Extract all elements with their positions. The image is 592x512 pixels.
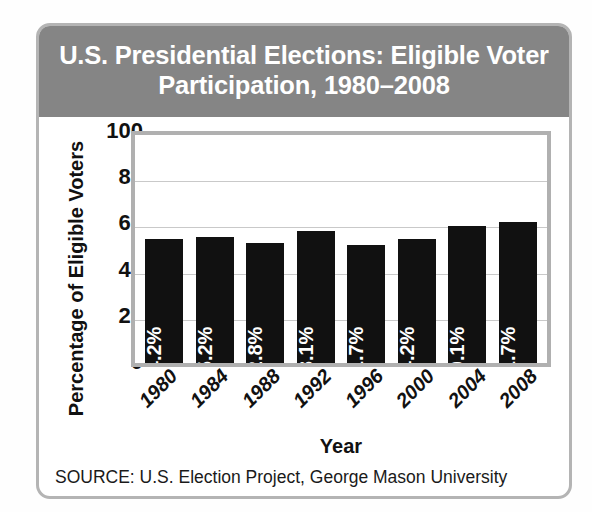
bar: 61.7% [499, 222, 537, 363]
bar-slot: 55.2% [196, 135, 234, 363]
plot-frame: 54.2% 55.2% 52.8% [131, 131, 551, 367]
bar-value-label: 52.8% [246, 327, 265, 363]
x-slot: 2008 [502, 371, 540, 433]
x-slot: 1984 [193, 371, 231, 433]
bar: 58.1% [297, 231, 335, 363]
bar-slot: 52.8% [246, 135, 284, 363]
x-tick-label: 1996 [340, 365, 388, 413]
x-tick-label: 1980 [134, 365, 182, 413]
x-slot: 1988 [245, 371, 283, 433]
x-axis-title: Year [131, 435, 551, 458]
x-axis-tick-labels: 1980 1984 1988 1992 1996 2000 2004 2008 [131, 371, 551, 433]
bar-value-label: 54.2% [145, 327, 164, 363]
bar-value-label: 60.1% [448, 327, 467, 363]
bar-series: 54.2% 55.2% 52.8% [135, 135, 547, 363]
x-tick-label: 1988 [237, 365, 285, 413]
bar: 52.8% [246, 243, 284, 363]
chart-title-band: U.S. Presidential Elections: Eligible Vo… [36, 23, 572, 117]
bar-value-label: 55.2% [196, 327, 215, 363]
x-tick-label: 1992 [289, 365, 337, 413]
bar: 54.2% [398, 239, 436, 363]
bar-value-label: 54.2% [398, 327, 417, 363]
bar-value-label: 58.1% [297, 327, 316, 363]
chart-title: U.S. Presidential Elections: Eligible Vo… [54, 40, 554, 100]
x-tick-label: 2008 [495, 365, 543, 413]
x-slot: 1980 [142, 371, 180, 433]
bar-slot: 60.1% [448, 135, 486, 363]
bar-slot: 58.1% [297, 135, 335, 363]
bar-slot: 61.7% [499, 135, 537, 363]
x-tick-label: 1984 [186, 365, 234, 413]
y-axis-title: Percentage of Eligible Voters [65, 134, 88, 424]
x-slot: 1996 [348, 371, 386, 433]
bar-slot: 54.2% [145, 135, 183, 363]
bar-value-label: 51.7% [347, 327, 366, 363]
x-slot: 1992 [296, 371, 334, 433]
source-note: SOURCE: U.S. Election Project, George Ma… [55, 467, 507, 488]
chart-figure: U.S. Presidential Elections: Eligible Vo… [0, 0, 592, 512]
x-slot: 2004 [451, 371, 489, 433]
chart-plot-region: Percentage of Eligible Voters 100 80 60 … [39, 117, 569, 496]
bar-value-label: 61.7% [499, 327, 518, 363]
bar-slot: 51.7% [347, 135, 385, 363]
bar: 54.2% [145, 239, 183, 363]
x-tick-label: 2004 [443, 365, 491, 413]
bar-slot: 54.2% [398, 135, 436, 363]
bar: 55.2% [196, 237, 234, 363]
plot-inner: 54.2% 55.2% 52.8% [135, 135, 547, 363]
bar: 51.7% [347, 245, 385, 363]
x-tick-label: 2000 [392, 365, 440, 413]
x-slot: 2000 [399, 371, 437, 433]
bar: 60.1% [448, 226, 486, 363]
chart-card: U.S. Presidential Elections: Eligible Vo… [36, 23, 572, 499]
